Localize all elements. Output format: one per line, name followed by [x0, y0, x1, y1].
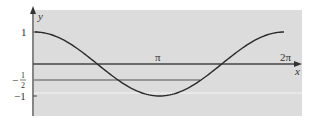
y-axis-label: y [37, 10, 43, 22]
pi-label: π [155, 51, 161, 63]
y-tick-half-num: 1 [21, 71, 25, 80]
y-tick-half-den: 2 [21, 81, 25, 90]
x-axis-label: x [294, 65, 300, 77]
y-tick-1: 1 [21, 26, 27, 38]
two-pi-label: 2π [280, 51, 292, 63]
cosine-chart: y x π 2π 1 − 1 2 −1 [0, 0, 315, 124]
y-tick-minus1: −1 [14, 90, 26, 102]
plot-background [34, 10, 302, 116]
y-tick-minus: − [12, 74, 18, 86]
